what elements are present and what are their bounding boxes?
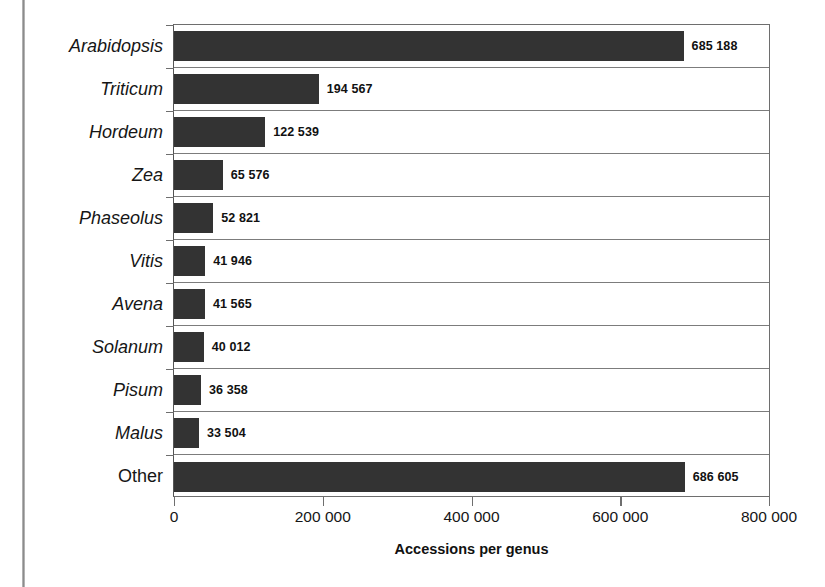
y-axis-label-slot: Triticum [0, 67, 163, 110]
bar[interactable] [174, 418, 199, 448]
y-axis-tick-mark [166, 326, 174, 327]
bar-value-label: 41 565 [213, 297, 252, 311]
chart-row: 122 539 [174, 111, 769, 154]
bar[interactable] [174, 332, 204, 362]
bar[interactable] [174, 31, 684, 61]
y-axis-category-label: Zea [3, 164, 163, 185]
y-axis-label-slot: Pisum [0, 368, 163, 411]
x-axis-tick-label: 800 000 [741, 508, 797, 526]
y-axis-category-label: Malus [3, 422, 163, 443]
chart-row: 194 567 [174, 68, 769, 111]
bar[interactable] [174, 160, 223, 190]
bar-value-label: 686 605 [693, 470, 739, 484]
x-axis-tick-label: 0 [170, 508, 179, 526]
x-axis-title: Accessions per genus [173, 541, 770, 557]
bar[interactable] [174, 289, 205, 319]
y-axis-tick-mark [166, 369, 174, 370]
chart-row: 686 605 [174, 455, 769, 498]
y-axis-tick-mark [166, 111, 174, 112]
bar-value-label: 685 188 [692, 39, 738, 53]
y-axis-category-labels: ArabidopsisTriticumHordeumZeaPhaseolusVi… [0, 24, 163, 497]
bar-value-label: 122 539 [273, 125, 319, 139]
x-axis-tick-label: 400 000 [443, 508, 499, 526]
y-axis-category-label: Other [3, 465, 163, 486]
plot-area: 685 188194 567122 53965 57652 82141 9464… [173, 24, 770, 497]
y-axis-label-slot: Malus [0, 411, 163, 454]
x-axis-tick-mark [472, 497, 473, 506]
y-axis-tick-mark [166, 197, 174, 198]
y-axis-category-label: Triticum [3, 78, 163, 99]
y-axis-tick-mark [166, 455, 174, 456]
y-axis-tick-mark [166, 68, 174, 69]
bar[interactable] [174, 117, 265, 147]
y-axis-category-label: Phaseolus [3, 207, 163, 228]
chart-row: 41 946 [174, 240, 769, 283]
bar[interactable] [174, 74, 319, 104]
y-axis-label-slot: Solanum [0, 325, 163, 368]
y-axis-tick-mark [166, 240, 174, 241]
bar-value-label: 194 567 [327, 82, 373, 96]
x-axis-tick-label: 200 000 [295, 508, 351, 526]
y-axis-tick-mark [166, 283, 174, 284]
bar-value-label: 52 821 [221, 211, 260, 225]
x-axis-tick-mark [323, 497, 324, 506]
y-axis-tick-mark [166, 154, 174, 155]
bar-value-label: 33 504 [207, 426, 246, 440]
y-axis-category-label: Solanum [3, 336, 163, 357]
y-axis-label-slot: Other [0, 454, 163, 497]
bar[interactable] [174, 203, 213, 233]
bar[interactable] [174, 375, 201, 405]
y-axis-tick-mark [166, 412, 174, 413]
chart-row: 685 188 [174, 25, 769, 68]
y-axis-category-label: Hordeum [3, 121, 163, 142]
y-axis-label-slot: Phaseolus [0, 196, 163, 239]
chart-row: 40 012 [174, 326, 769, 369]
x-axis-tick-mark [174, 497, 175, 506]
horizontal-bar-chart: ArabidopsisTriticumHordeumZeaPhaseolusVi… [0, 0, 825, 587]
bar-value-label: 41 946 [213, 254, 252, 268]
bar-value-label: 36 358 [209, 383, 248, 397]
y-axis-label-slot: Avena [0, 282, 163, 325]
x-axis: 0200 000400 000600 000800 000 [173, 497, 770, 537]
y-axis-label-slot: Zea [0, 153, 163, 196]
bar[interactable] [174, 462, 685, 492]
x-axis-tick-label: 600 000 [592, 508, 648, 526]
y-axis-label-slot: Arabidopsis [0, 24, 163, 67]
y-axis-label-slot: Vitis [0, 239, 163, 282]
chart-row: 33 504 [174, 412, 769, 455]
x-axis-tick-mark [769, 497, 770, 506]
y-axis-label-slot: Hordeum [0, 110, 163, 153]
chart-row: 36 358 [174, 369, 769, 412]
bar-value-label: 40 012 [212, 340, 251, 354]
y-axis-category-label: Vitis [3, 250, 163, 271]
y-axis-category-label: Avena [3, 293, 163, 314]
chart-row: 65 576 [174, 154, 769, 197]
y-axis-tick-mark [166, 25, 174, 26]
bar-value-label: 65 576 [231, 168, 270, 182]
x-axis-tick-mark [620, 497, 621, 506]
y-axis-category-label: Pisum [3, 379, 163, 400]
chart-row: 52 821 [174, 197, 769, 240]
bar[interactable] [174, 246, 205, 276]
y-axis-category-label: Arabidopsis [3, 35, 163, 56]
chart-row: 41 565 [174, 283, 769, 326]
